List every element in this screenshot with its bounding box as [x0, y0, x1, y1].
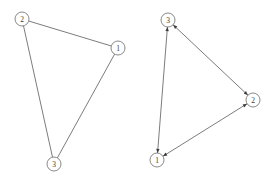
graph-edge	[173, 25, 248, 95]
graph-node-2[interactable]: 2	[15, 12, 29, 26]
node-circle[interactable]	[47, 157, 61, 171]
arrowhead-icon	[163, 153, 167, 157]
graph-node-3[interactable]: 3	[161, 13, 175, 27]
node-circle[interactable]	[111, 41, 125, 55]
graph-edge	[163, 104, 247, 157]
graph-edge	[57, 54, 114, 158]
graph-figure: 213321	[0, 0, 272, 182]
graph-node-1[interactable]: 1	[150, 153, 164, 167]
edges-layer	[24, 21, 248, 158]
graph-canvas: 213321	[0, 0, 272, 182]
graph-node-2[interactable]: 2	[246, 93, 260, 107]
arrowhead-icon	[243, 104, 247, 108]
graph-edge	[24, 26, 53, 157]
graph-edge	[29, 21, 112, 46]
node-circle[interactable]	[246, 93, 260, 107]
arrowheads-layer	[156, 25, 248, 156]
node-circle[interactable]	[150, 153, 164, 167]
node-circle[interactable]	[161, 13, 175, 27]
graph-node-1[interactable]: 1	[111, 41, 125, 55]
node-circle[interactable]	[15, 12, 29, 26]
nodes-layer: 213321	[15, 12, 260, 171]
graph-node-3[interactable]: 3	[47, 157, 61, 171]
graph-edge	[158, 27, 168, 153]
